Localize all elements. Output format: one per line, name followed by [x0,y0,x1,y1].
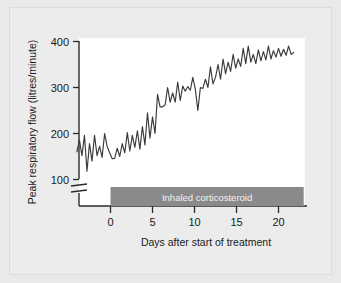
y-tick-label-200: 200 [51,128,69,140]
plot-area-background [79,38,305,206]
x-axis-ticks [111,206,279,213]
y-axis-ticks [73,42,79,180]
x-tick-label-10: 10 [188,216,200,228]
y-axis-title: Peak respiratory flow (litres/minute) [26,40,38,205]
x-tick-label-20: 20 [272,216,284,228]
peak-flow-line-chart: 400 300 200 100 0 5 10 15 20 Inhaled cor… [0,0,341,283]
y-tick-label-100: 100 [51,174,69,186]
x-tick-label-0: 0 [107,216,113,228]
y-tick-label-400: 400 [51,36,69,48]
y-tick-label-300: 300 [51,82,69,94]
x-tick-label-15: 15 [230,216,242,228]
inhaled-corticosteroid-label: Inhaled corticosteroid [162,192,252,203]
x-tick-label-5: 5 [149,216,155,228]
figure-panel: 400 300 200 100 0 5 10 15 20 Inhaled cor… [0,0,341,283]
x-axis-title: Days after start of treatment [141,236,271,248]
